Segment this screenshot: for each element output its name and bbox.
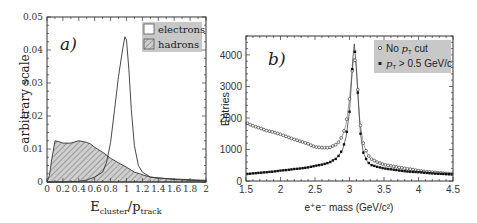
data-point-open <box>318 146 321 149</box>
data-point-open <box>403 167 406 170</box>
data-point-filled <box>263 171 265 173</box>
data-point-open <box>257 126 260 129</box>
data-point-filled <box>401 170 403 172</box>
data-point-open <box>395 166 398 169</box>
hadrons-area <box>47 141 206 182</box>
data-point-filled <box>288 169 290 171</box>
data-point-filled <box>307 166 309 168</box>
data-point-filled <box>337 155 339 157</box>
data-point-open <box>304 142 307 145</box>
data-point-filled <box>381 167 383 169</box>
data-point-filled <box>409 171 411 173</box>
data-point-filled <box>304 167 306 169</box>
x-axis-label-b: e⁺e⁻ mass (GeV/c²) <box>305 202 394 213</box>
x-tick-label: 3.5 <box>377 184 391 195</box>
data-point-filled <box>351 68 353 70</box>
x-tick-label: 0.4 <box>72 184 87 194</box>
data-point-filled <box>274 170 276 172</box>
data-point-filled <box>428 172 430 174</box>
data-point-filled <box>412 171 414 173</box>
data-point-filled <box>404 170 406 172</box>
data-point-filled <box>373 165 375 167</box>
x-tick-label: 2 <box>203 184 209 194</box>
data-point-open <box>307 142 310 145</box>
chart-panel-a: 00.20.40.60.811.21.41.61.82 00.010.020.0… <box>18 12 209 216</box>
data-point-open <box>367 155 370 158</box>
data-point-open <box>345 118 348 121</box>
data-point-open <box>406 167 409 170</box>
x-tick-label: 3 <box>347 184 353 195</box>
data-point-filled <box>290 168 292 170</box>
data-point-filled <box>398 169 400 171</box>
data-point-filled <box>312 165 314 167</box>
legend-label-pt-cut: pT > 0.5 GeV/c <box>386 58 452 70</box>
data-point-filled <box>357 92 359 94</box>
x-axis-label-a: Ecluster/ptrack <box>90 199 162 216</box>
data-point-filled <box>326 162 328 164</box>
data-point-filled <box>332 159 334 161</box>
data-point-filled <box>301 167 303 169</box>
y-tick-label: 1000 <box>220 144 243 155</box>
data-point-filled <box>257 172 259 174</box>
data-point-open <box>390 165 393 168</box>
legend-label-hadrons: hadrons <box>158 39 199 50</box>
data-point-open <box>384 164 387 167</box>
data-point-open <box>285 135 288 138</box>
data-point-open <box>381 163 384 166</box>
data-point-open <box>254 125 257 128</box>
data-point-filled <box>252 172 254 174</box>
data-point-filled <box>315 164 317 166</box>
data-point-open <box>343 130 346 133</box>
data-point-filled <box>268 171 270 173</box>
data-point-open <box>312 145 315 148</box>
data-point-filled <box>271 171 273 173</box>
data-point-filled <box>293 168 295 170</box>
data-point-filled <box>348 111 350 113</box>
data-point-filled <box>310 166 312 168</box>
y-tick-label: 0 <box>37 177 43 187</box>
data-point-filled <box>415 171 417 173</box>
y-tick-label: 4000 <box>220 50 243 61</box>
data-point-filled <box>260 172 262 174</box>
data-point-open <box>279 133 282 136</box>
data-point-filled <box>370 164 372 166</box>
data-point-filled <box>448 173 450 175</box>
data-point-open <box>376 161 379 164</box>
x-tick-label: 4.5 <box>446 184 460 195</box>
data-point-filled <box>393 169 395 171</box>
data-point-open <box>348 98 351 101</box>
x-tick-label: 4 <box>416 184 422 195</box>
data-point-filled <box>406 170 408 172</box>
data-point-open <box>282 134 285 137</box>
filled-square-marker-icon <box>379 62 382 65</box>
y-axis-label-b: Entries <box>219 91 231 126</box>
x-tick-label: 2 <box>278 184 284 195</box>
series-no-pt-cut <box>246 59 453 175</box>
data-point-filled <box>390 168 392 170</box>
data-point-open <box>398 166 401 169</box>
data-point-filled <box>324 163 326 165</box>
figure: 00.20.40.60.811.21.41.61.82 00.010.020.0… <box>0 0 477 223</box>
data-point-open <box>373 159 376 162</box>
data-point-open <box>321 146 324 149</box>
data-point-filled <box>296 168 298 170</box>
data-point-filled <box>285 169 287 171</box>
x-tick-label: 1.8 <box>183 184 198 194</box>
data-point-filled <box>379 166 381 168</box>
data-point-open <box>287 136 290 139</box>
open-circle-marker-icon <box>378 46 381 49</box>
legend-a: electrons hadrons <box>142 22 205 52</box>
data-point-filled <box>343 143 345 145</box>
data-point-open <box>301 141 304 144</box>
legend-b: No pT cut pT > 0.5 GeV/c <box>374 40 452 73</box>
data-point-open <box>274 131 277 134</box>
data-point-open <box>326 146 329 149</box>
data-point-open <box>323 146 326 149</box>
data-point-filled <box>354 51 356 53</box>
data-point-filled <box>439 173 441 175</box>
data-point-open <box>362 142 365 145</box>
panel-label-a: a) <box>60 34 77 54</box>
y-tick-label: 0.05 <box>23 12 43 22</box>
data-point-filled <box>365 158 367 160</box>
data-point-open <box>263 128 266 131</box>
